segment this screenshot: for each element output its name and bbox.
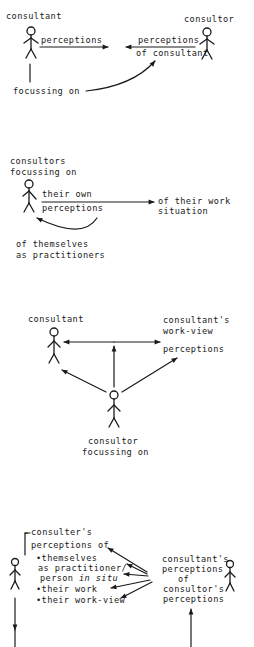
perceptions-label: perceptions (41, 35, 102, 45)
consultor-stick-figure (108, 391, 120, 427)
workview-line1: consultant's (163, 315, 230, 325)
right-line4: consultor's (163, 584, 224, 594)
consultor-line1: consultor (88, 436, 138, 446)
panel-3: consultant consultant's work-view percep… (28, 314, 230, 457)
consultant-stick-figure (48, 328, 60, 363)
consultor-label: consultor (184, 14, 234, 24)
right-line3: of (178, 574, 189, 584)
right-line2: perceptions (162, 564, 223, 574)
bullet-their-work-view: •their work-view (36, 595, 126, 605)
left-diagonal-arrow (62, 370, 106, 392)
panel-2: consultors focussing on their own percep… (10, 156, 231, 260)
consultant-label: consultant (28, 314, 84, 324)
consultant-stick-figure (225, 561, 235, 592)
right-diagonal-arrow (122, 358, 177, 392)
consulter-stick-figure (10, 559, 20, 590)
right-line5: perceptions (163, 594, 224, 604)
consultor-stick-figure (23, 180, 36, 212)
left-bracket-line (25, 533, 27, 555)
consultor-line2: focussing on (82, 447, 149, 457)
bullet-themselves-line2: as practitioner/ (38, 563, 127, 573)
their-own-line1: their own (42, 189, 92, 199)
bullet-themselves-line1: •themselves (36, 553, 97, 563)
bullet-themselves-line3: person in situ (40, 573, 118, 583)
themselves-line2: as practitioners (16, 250, 105, 260)
their-own-line2: perceptions (42, 203, 103, 213)
perceptions-of-consultant-line2: of consultant (136, 48, 208, 58)
consultant-label: consultant (6, 11, 62, 21)
consultors-label-line1: consultors (10, 156, 66, 166)
consultant-stick-figure (24, 27, 38, 58)
diagram-canvas: consultant consultor perceptions percept… (0, 0, 254, 647)
work-situation-line1: of their work (158, 196, 231, 206)
themselves-arrow (37, 218, 97, 229)
themselves-line1: of themselves (16, 239, 88, 249)
workview-line2: work-view (163, 326, 214, 336)
work-situation-line2: situation (158, 206, 208, 216)
left-heading-line2: perceptions of (31, 540, 109, 550)
focussing-arrow (86, 61, 155, 91)
consultors-label-line2: focussing on (10, 167, 77, 177)
workview-line3: perceptions (163, 344, 224, 354)
right-line1: consultant's (162, 554, 229, 564)
left-heading-line1: consulter's (31, 527, 92, 537)
focussing-on-label: focussing on (13, 86, 80, 96)
bullet-their-work: •their work (36, 584, 98, 594)
perceptions-of-consultant-line1: perceptions (138, 35, 199, 45)
panel-1: consultant consultor perceptions percept… (6, 11, 234, 96)
panel-4: consulter's perceptions of •themselves a… (10, 527, 235, 647)
